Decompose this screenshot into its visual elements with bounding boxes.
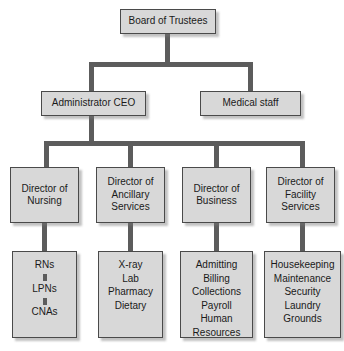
staff-item: Maintenance [274,273,331,286]
connector-facility-staff [300,222,305,252]
node-label-line2: Business [196,195,237,208]
connector-directors-bar [44,141,305,146]
connector-nursing-staff [42,222,47,252]
node-director-of-nursing[interactable]: Director of Nursing [10,167,79,223]
staff-item: RNs [35,259,54,272]
node-label-line2: Ancillary [112,189,150,202]
staff-item: Payroll [201,300,232,313]
staff-item: Grounds [283,313,321,326]
rank-separator-bar [43,274,47,281]
staff-item: Housekeeping [271,259,335,272]
connector-business-staff [214,222,219,252]
connector-director-facility-drop [300,141,305,168]
node-label-line1: Director of [107,176,153,189]
staff-item: LPNs [32,283,56,296]
node-label-line3: Services [111,201,149,214]
staff-item: Admitting [196,259,238,272]
node-label-line3: Services [281,201,319,214]
staff-item: Resources [193,327,241,340]
connector-director-nursing-drop [44,141,49,168]
staff-item: Security [284,286,320,299]
connector-director-ancillary-drop [128,141,133,168]
connector-medical-drop [248,62,253,92]
connector-ancillary-staff [128,222,133,252]
node-label-line2: Facility [285,189,316,202]
connector-ceo-stem [89,115,94,141]
node-director-of-facility-services[interactable]: Director of Facility Services [266,167,335,223]
connector-director-business-drop [214,141,219,168]
staff-box-nursing[interactable]: RNsLPNsCNAs [12,251,77,338]
node-label: Board of Trustees [129,15,208,28]
staff-item: Lab [122,273,139,286]
staff-item: Laundry [284,300,320,313]
org-chart: Board of Trustees Administrator CEO Medi… [0,0,344,351]
staff-item: Collections [192,286,241,299]
staff-box-business[interactable]: AdmittingBillingCollectionsPayrollHumanR… [180,251,253,338]
connector-board-bar [89,62,253,67]
node-label-line2: Nursing [27,195,61,208]
node-label-line1: Director of [21,183,67,196]
staff-item: X-ray [119,259,143,272]
node-label: Administrator CEO [52,97,135,110]
node-medical-staff[interactable]: Medical staff [200,91,301,116]
staff-item: Dietary [115,300,147,313]
rank-separator-bar [43,298,47,305]
staff-item: Human [200,313,232,326]
staff-box-facility[interactable]: HousekeepingMaintenanceSecurityLaundryGr… [264,251,341,338]
node-director-of-ancillary-services[interactable]: Director of Ancillary Services [96,167,165,223]
node-label-line1: Director of [277,176,323,189]
node-label-line1: Director of [193,183,239,196]
staff-box-ancillary[interactable]: X-rayLabPharmacyDietary [98,251,163,338]
connector-ceo-drop [89,62,94,92]
connector-board-stem [165,33,170,62]
staff-item: Billing [203,273,230,286]
node-director-of-business[interactable]: Director of Business [182,167,251,223]
node-board-of-trustees[interactable]: Board of Trustees [120,9,216,34]
staff-item: CNAs [31,306,57,319]
node-label: Medical staff [223,97,279,110]
staff-item: Pharmacy [108,286,153,299]
node-administrator-ceo[interactable]: Administrator CEO [41,91,146,116]
